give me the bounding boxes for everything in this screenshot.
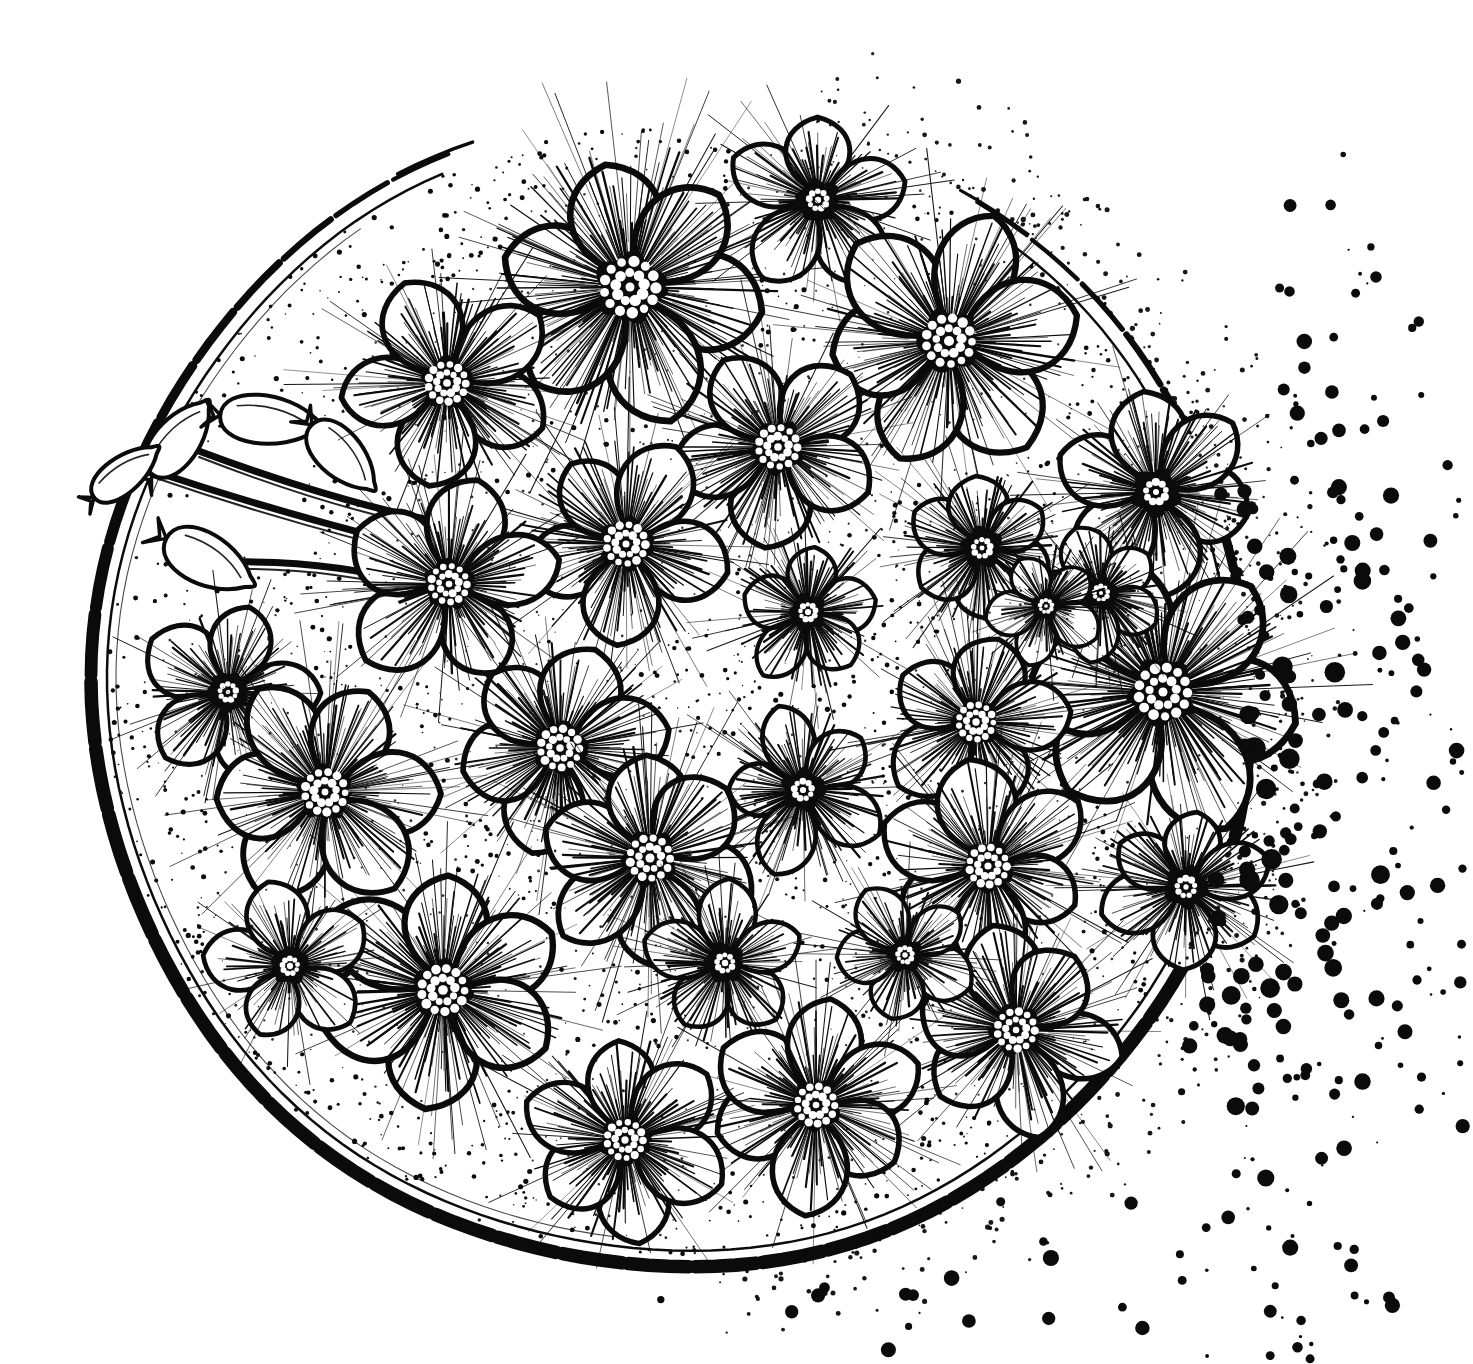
petal-speckle [1057, 800, 1059, 802]
stamen-dot [417, 990, 426, 999]
stipple-dot [1097, 345, 1100, 348]
petal-speckle [507, 844, 508, 845]
ink-dot [1449, 743, 1465, 759]
stipple-dot [1044, 462, 1049, 467]
ink-dot [1418, 392, 1424, 398]
ink-dot-fine [1181, 279, 1183, 281]
stipple-dot [381, 491, 385, 495]
petal-speckle [842, 579, 844, 581]
petal-speckle [883, 743, 886, 746]
stipple-dot [302, 392, 304, 394]
stamen-dot [607, 265, 616, 274]
ink-dot-fine [1166, 1041, 1169, 1044]
stamen-dot [418, 980, 427, 989]
stamen-dot [975, 702, 982, 709]
stamen-dot [449, 589, 457, 597]
petal-speckle [234, 1004, 237, 1007]
stipple-dot [237, 382, 239, 384]
ink-dot-fine [1234, 551, 1238, 555]
petal-speckle [263, 1019, 265, 1021]
stamen-dot [443, 379, 451, 387]
stipple-dot [171, 879, 173, 881]
stamen-dot [568, 729, 575, 736]
ink-dot-fine [988, 145, 992, 149]
ink-dot-fine [1170, 994, 1172, 996]
stipple-dot [890, 690, 895, 695]
petal-speckle [883, 227, 885, 229]
petal-speckle [376, 1101, 379, 1104]
stipple-dot [1141, 982, 1146, 987]
stipple-dot [168, 493, 173, 498]
stamen-dot [1013, 1017, 1019, 1023]
stipple-dot [574, 1226, 576, 1228]
petal-speckle [955, 1093, 958, 1096]
ink-dot [1360, 424, 1370, 434]
stamen-dot [322, 789, 329, 796]
stipple-dot [201, 897, 203, 899]
stipple-dot [613, 1020, 618, 1025]
ink-dot-fine [938, 1211, 942, 1215]
stipple-dot [535, 890, 537, 892]
stamen-dot [604, 535, 611, 542]
petal-speckle [744, 801, 745, 802]
stamen-dot [988, 727, 995, 734]
stamen-dot [640, 532, 648, 540]
stamen-dot [292, 958, 297, 963]
ink-dot-fine [1053, 1148, 1055, 1150]
ink-dot-fine [1288, 563, 1290, 565]
stipple-dot [157, 563, 159, 565]
petal-speckle [974, 1085, 976, 1087]
ink-dot [1329, 333, 1338, 342]
petal-speckle [1075, 872, 1078, 875]
stipple-dot [705, 1046, 708, 1049]
stipple-dot [288, 304, 292, 308]
stipple-dot [312, 313, 314, 315]
stamen-dot [625, 268, 634, 277]
stipple-dot [361, 1078, 363, 1080]
stipple-dot [794, 886, 797, 889]
ink-dot [1269, 895, 1288, 914]
ink-dot [1201, 963, 1215, 977]
petal-speckle [1001, 396, 1003, 398]
center-ray [1100, 531, 1101, 581]
petal-speckle [392, 730, 394, 732]
ink-dot-fine [1304, 720, 1306, 722]
petal-speckle [1029, 303, 1032, 306]
ink-dot-fine [1213, 480, 1218, 485]
stipple-dot [240, 356, 245, 361]
petal-speckle [642, 443, 644, 445]
petal-speckle [740, 194, 741, 195]
stipple-dot [976, 1156, 978, 1158]
stipple-dot [934, 635, 936, 637]
stipple-dot [467, 1151, 471, 1155]
stipple-dot [734, 671, 737, 674]
ink-dot [1389, 847, 1397, 855]
petal-speckle [222, 960, 223, 961]
petal-speckle [932, 771, 935, 774]
stipple-dot [724, 159, 728, 163]
petal-speckle [1217, 647, 1220, 650]
ink-dot [1371, 395, 1377, 401]
ink-dot-fine [1202, 1007, 1205, 1010]
stipple-dot [909, 621, 912, 624]
ink-dot [1370, 271, 1382, 283]
petal-speckle [1051, 1100, 1053, 1102]
petal-speckle [887, 311, 890, 314]
stipple-dot [1117, 1009, 1119, 1011]
petal-speckle [571, 519, 572, 520]
petal-speckle [555, 632, 556, 633]
petal-speckle [752, 222, 754, 224]
ink-dot-fine [1336, 700, 1340, 704]
ink-dot [1205, 1268, 1209, 1272]
stipple-dot [501, 1159, 503, 1161]
petal-speckle [549, 265, 551, 267]
petal-speckle [537, 870, 540, 873]
stamen-dot [622, 530, 629, 537]
ink-dot-fine [1186, 391, 1189, 394]
ink-dot-fine [1233, 558, 1236, 561]
stamen-dot [442, 964, 451, 973]
petal-speckle [326, 660, 328, 662]
ink-dot [1217, 1027, 1234, 1044]
ink-dot-fine [1289, 944, 1292, 947]
stipple-dot [850, 883, 852, 885]
